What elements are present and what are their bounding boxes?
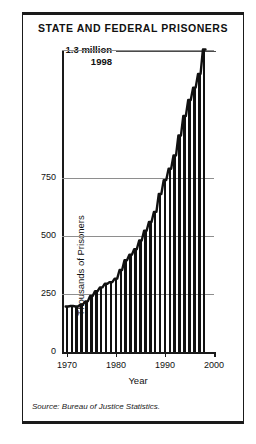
x-tick-label: 1990 xyxy=(145,360,185,370)
bar-1982 xyxy=(124,260,127,352)
bar-1978 xyxy=(105,284,108,352)
bar-1995 xyxy=(188,100,191,352)
gridline-250 xyxy=(62,294,214,295)
frame-top-rule xyxy=(22,12,244,15)
bar-1983 xyxy=(129,255,132,352)
bar-1989 xyxy=(159,194,162,352)
y-tick-label: 500 xyxy=(16,230,56,240)
x-tick-label: 1980 xyxy=(96,360,136,370)
bar-1991 xyxy=(169,169,172,352)
bar-1994 xyxy=(183,116,186,352)
x-tick-label: 1970 xyxy=(47,360,87,370)
gridline-750 xyxy=(62,178,214,179)
bar-1981 xyxy=(120,270,123,352)
bar-1979 xyxy=(110,282,113,352)
plot-area xyxy=(62,50,214,352)
bar-1985 xyxy=(139,241,142,353)
bar-1986 xyxy=(144,231,147,352)
x-tick-label: 2000 xyxy=(194,360,234,370)
bar-1987 xyxy=(149,222,152,352)
bar-1973 xyxy=(80,305,83,352)
bar-1998 xyxy=(203,50,206,352)
y-axis-label-wrapper: Thousands of Prisoners xyxy=(34,110,48,290)
bar-1996 xyxy=(193,88,196,352)
bar-1971 xyxy=(71,306,74,352)
bar-1988 xyxy=(154,212,157,352)
bar-1974 xyxy=(85,301,88,352)
bar-1972 xyxy=(75,306,78,352)
bar-1984 xyxy=(134,249,137,352)
bar-1992 xyxy=(173,155,176,352)
bar-1997 xyxy=(198,74,201,352)
bar-1970 xyxy=(66,306,69,352)
source-note: Source: Bureau of Justice Statistics. xyxy=(32,402,160,411)
bar-1977 xyxy=(100,287,103,352)
frame-bottom-rule xyxy=(22,421,244,424)
gridline-500 xyxy=(62,236,214,237)
bar-1993 xyxy=(178,136,181,353)
bar-1975 xyxy=(90,296,93,352)
bar-1980 xyxy=(115,279,118,352)
y-tick-label: 250 xyxy=(16,288,56,298)
x-tick-mark xyxy=(214,352,216,357)
x-axis-label: Year xyxy=(62,375,214,386)
x-tick-mark xyxy=(165,352,167,357)
x-axis-line xyxy=(62,352,214,354)
x-tick-mark xyxy=(67,352,69,357)
y-tick-label: 0 xyxy=(16,346,56,356)
bar-1990 xyxy=(164,180,167,352)
x-tick-mark xyxy=(116,352,118,357)
chart-title: STATE AND FEDERAL PRISONERS xyxy=(22,22,244,34)
gridline-peak xyxy=(62,50,214,51)
figure-container: STATE AND FEDERAL PRISONERS 1.3 million … xyxy=(0,0,256,444)
bar-1976 xyxy=(95,291,98,352)
y-tick-label: 750 xyxy=(16,172,56,182)
